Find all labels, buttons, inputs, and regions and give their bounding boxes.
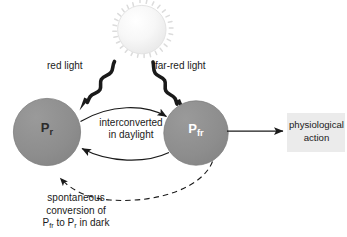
pfr-circle-label: Pfr [176,123,216,139]
physiological-action-label: physiological action [288,119,345,144]
pr-circle-label: Pr [27,122,67,138]
spontaneous-line-1: spontaneous [47,192,104,203]
pfr-label-subscript: fr [197,128,204,138]
physiological-line-2: action [304,132,330,143]
pr-label-subscript: r [50,127,54,137]
interconverted-in-daylight-label: interconverted in daylight [86,117,176,141]
interconverted-line-2: in daylight [108,129,153,140]
spontaneous-connector-to: to P [54,217,75,228]
spontaneous-line-2: conversion of [46,205,105,216]
red-light-squiggle-arrow [80,62,115,111]
far-red-light-label: far-red light [155,60,206,72]
phytochrome-diagram: red light far-red light interconverted i… [0,0,347,237]
pfr-to-pr-arc-arrow [82,149,169,161]
sun-icon [113,0,173,58]
spontaneous-line-3: Pfr to Pr in dark [43,217,110,228]
pr-label-main: P [41,120,50,135]
spontaneous-suffix-in-dark: in dark [77,217,110,228]
spontaneous-conversion-label: spontaneous conversion of Pfr to Pr in d… [17,192,135,233]
interconverted-line-1: interconverted [99,117,162,128]
physiological-line-1: physiological [289,119,344,130]
pfr-label-main: P [188,121,197,136]
red-light-label: red light [47,60,83,72]
